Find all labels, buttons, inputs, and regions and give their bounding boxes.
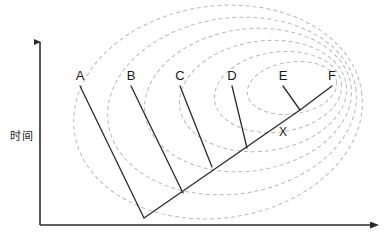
contour-ring-group: [60, 0, 377, 237]
branch-a: [80, 86, 144, 218]
branch-f: [300, 86, 332, 110]
axes-group: [40, 42, 370, 225]
taxon-label-e: E: [279, 68, 288, 83]
branch-e: [283, 86, 300, 110]
tree-backbone: [144, 110, 300, 218]
y-axis-label: 时间: [10, 130, 34, 143]
taxon-label-c: C: [175, 68, 184, 83]
tree-group: [80, 86, 332, 218]
taxon-label-a: A: [76, 68, 85, 83]
contour-ring-3: [135, 15, 361, 185]
contour-ring-1: [60, 0, 377, 237]
figure-canvas: ABCDEF X 时间: [0, 0, 385, 245]
taxon-label-d: D: [227, 68, 236, 83]
branch-c: [180, 86, 212, 167]
contour-ring-6: [244, 56, 340, 120]
phylogeny-contour-figure: ABCDEF X 时间: [0, 0, 385, 245]
internal-node-label-group: X: [279, 125, 287, 139]
taxon-label-b: B: [127, 68, 136, 83]
taxon-label-group: ABCDEF: [76, 68, 336, 83]
branch-b: [131, 86, 183, 193]
contour-ring-2: [96, 1, 368, 210]
node-label-x: X: [279, 125, 287, 139]
taxon-label-f: F: [328, 68, 336, 83]
branch-d: [232, 86, 247, 148]
contour-ring-4: [172, 30, 354, 162]
